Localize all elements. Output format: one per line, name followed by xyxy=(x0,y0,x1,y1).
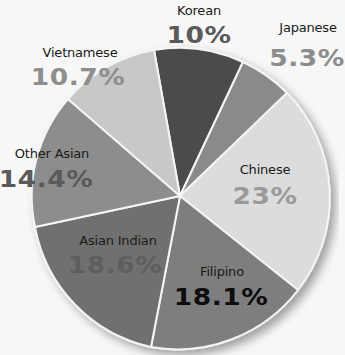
category-label-other-asian: Other Asian xyxy=(15,146,89,161)
category-label-vietnamese: Vietnamese xyxy=(43,45,118,60)
category-label-korean: Korean xyxy=(177,3,221,18)
percent-label-filipino: 18.1% xyxy=(174,284,269,310)
percent-label-vietnamese: 10.7% xyxy=(31,64,126,90)
percent-label-other-asian: 14.4% xyxy=(0,166,93,192)
category-label-chinese: Chinese xyxy=(240,162,291,177)
percent-label-korean: 10% xyxy=(166,22,231,48)
category-label-japanese: Japanese xyxy=(279,20,336,35)
category-label-asian-indian: Asian Indian xyxy=(79,233,156,248)
percent-label-japanese: 5.3% xyxy=(269,45,345,71)
percent-label-asian-indian: 18.6% xyxy=(68,252,163,278)
category-label-filipino: Filipino xyxy=(200,264,244,279)
percent-label-chinese: 23% xyxy=(232,183,297,209)
